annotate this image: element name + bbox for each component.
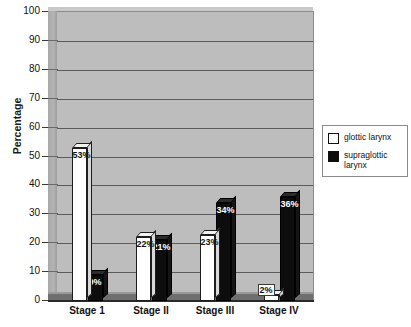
y-tick-label: 60 [14,122,40,132]
gridline-wall-stub [48,242,58,243]
y-tick-label: 10 [14,266,40,276]
y-tick-mark [42,69,48,70]
bar-front-face [72,148,87,301]
gridline [57,41,313,42]
gridline-wall-stub [48,156,58,157]
y-tick-mark [42,300,48,301]
gridline [57,185,313,186]
legend-swatch-icon-supraglottic [328,151,339,162]
y-tick-label: 80 [14,64,40,74]
bar-side-face [87,141,92,298]
bar-value-label: 34% [217,205,235,215]
bar-value-label: 36% [281,199,299,209]
y-tick-mark [42,184,48,185]
y-tick-mark [42,156,48,157]
bar-value-label: 22% [137,239,155,249]
gridline-wall-stub [48,184,58,185]
y-tick-label: 20 [14,237,40,247]
y-tick-mark [42,98,48,99]
bar-value-label: 23% [201,237,219,247]
y-tick-label: 90 [14,35,40,45]
gridline [57,214,313,215]
gridline-wall-stub [48,69,58,70]
y-tick-mark [42,40,48,41]
gridline-wall-stub [48,98,58,99]
y-tick-mark [42,127,48,128]
bar-value-label: 53% [73,150,91,160]
y-tick-label: 100 [14,6,40,16]
bar-value-label: 2% [258,284,275,296]
y-tick-mark [42,11,48,12]
legend-swatch-icon-glottic [328,133,339,144]
y-tick-label: 70 [14,93,40,103]
bar: 22% [136,237,151,301]
y-tick-mark [42,213,48,214]
plot-area: 53%9%22%21%23%34%2%36% [57,11,314,302]
bar-chart: Percentage 53%9%22%21%23%34%2%36% 100908… [0,0,411,327]
legend-label-glottic: glottic larynx [344,132,391,142]
gridline-wall-stub [48,271,58,272]
y-tick-mark [42,242,48,243]
legend-item-glottic-larynx: glottic larynx [328,132,402,144]
gridline-wall-stub [48,213,58,214]
x-tick-label: Stage IV [239,305,319,316]
gridline [57,70,313,71]
bar: 36% [280,197,295,301]
bar-front-face [280,197,295,301]
gridline [57,243,313,244]
bar: 2% [264,295,279,301]
gridline-wall-stub [48,127,58,128]
gridline [57,128,313,129]
bar-top-face [200,230,220,235]
y-tick-label: 50 [14,151,40,161]
bar: 23% [200,235,215,301]
y-tick-label: 0 [14,295,40,305]
legend-item-supraglottic-larynx: supraglottic larynx [328,150,402,170]
y-tick-label: 40 [14,179,40,189]
gridline [57,99,313,100]
legend: glottic larynx supraglottic larynx [322,125,408,177]
gridline [57,157,313,158]
bar: 53% [72,148,87,301]
gridline-wall-stub [48,40,58,41]
y-tick-mark [42,271,48,272]
legend-label-supraglottic: supraglottic larynx [344,150,402,170]
y-tick-label: 30 [14,208,40,218]
